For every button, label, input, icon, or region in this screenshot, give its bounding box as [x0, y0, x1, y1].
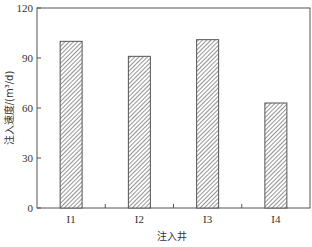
x-axis: I1I2I3I4 [67, 204, 281, 225]
bar-i4 [265, 103, 287, 208]
x-tick-label-i1: I1 [67, 213, 76, 225]
bars [60, 40, 287, 208]
x-tick-label-i3: I3 [203, 213, 213, 225]
bar-i3 [197, 40, 219, 208]
y-tick-label: 0 [28, 202, 34, 214]
y-axis-title: 注入速度/(m³/d) [3, 71, 15, 146]
y-tick-label: 120 [17, 2, 34, 14]
y-tick-label: 30 [22, 152, 34, 164]
x-tick-label-i4: I4 [271, 213, 281, 225]
y-tick-label: 60 [22, 102, 34, 114]
x-axis-title: 注入井 [157, 230, 187, 242]
bar-i2 [128, 56, 150, 208]
bar-i1 [60, 41, 82, 208]
y-tick-label: 90 [22, 52, 34, 64]
x-tick-label-i2: I2 [135, 213, 144, 225]
bar-chart: 0306090120 I1I2I3I4 注入速度/(m³/d) 注入井 [0, 0, 312, 247]
